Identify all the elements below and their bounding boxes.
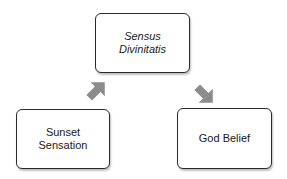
node-sunset-sensation: Sunset Sensation — [16, 109, 110, 169]
diagram-canvas: Sensus Divinitatis Sunset Sensation God … — [0, 0, 287, 179]
node-label: Sunset Sensation — [39, 126, 88, 152]
node-god-belief: God Belief — [177, 108, 272, 169]
arrow-down-right-icon — [193, 83, 217, 107]
node-sensus-divinitatis: Sensus Divinitatis — [95, 13, 190, 73]
arrow-up-right-icon — [85, 78, 109, 102]
node-label: Sensus Divinitatis — [119, 30, 166, 56]
node-label: God Belief — [199, 132, 250, 145]
